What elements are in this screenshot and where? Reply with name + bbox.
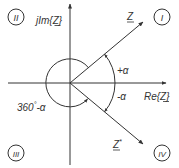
z-label: Z (126, 11, 134, 22)
quadrant-i-label: I (161, 13, 164, 23)
real-axis-label: Re{Z} (144, 91, 170, 102)
quadrant-ii-marker: II (8, 9, 24, 25)
quadrant-iii-label: III (13, 150, 20, 159)
plus-alpha-label: +α (117, 65, 129, 76)
minus-alpha-label: -α (117, 91, 126, 102)
quadrant-i-marker: I (154, 9, 170, 25)
z-vector (70, 22, 143, 83)
full-minus-alpha-number: 360 (17, 102, 34, 113)
z-conjugate-star: * (119, 138, 122, 145)
imaginary-axis-label: jIm{Z} (34, 15, 63, 26)
quadrant-iv-label: IV (158, 150, 166, 159)
z-conjugate-label: Z* (112, 138, 122, 150)
quadrant-ii-label: II (13, 13, 19, 23)
quadrant-iv-marker: IV (154, 145, 170, 161)
full-minus-alpha-label: 360°-α (17, 101, 46, 113)
z-conjugate-vector (70, 83, 143, 144)
arc-minus-alpha (105, 83, 116, 112)
arc-plus-alpha (105, 54, 116, 83)
diagram-canvas: jIm{Z} Re{Z} Z Z* +α -α 360°-α II I III (0, 0, 179, 168)
complex-plane-diagram: jIm{Z} Re{Z} Z Z* +α -α 360°-α II I III (0, 0, 179, 168)
full-minus-alpha-suffix: -α (37, 102, 46, 113)
quadrant-iii-marker: III (8, 145, 24, 161)
